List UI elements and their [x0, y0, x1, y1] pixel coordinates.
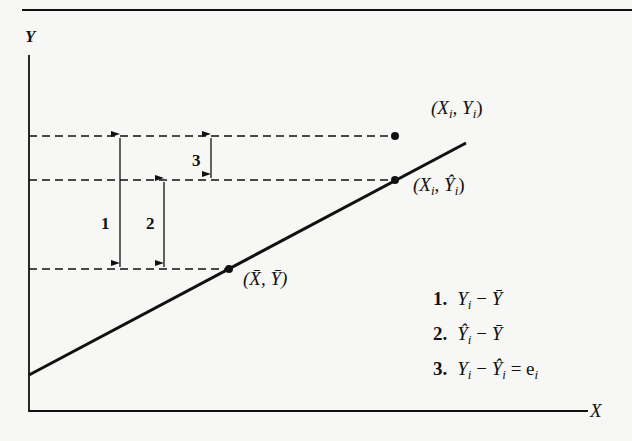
segment-1-label: 1	[101, 214, 110, 233]
y-axis-label: Y	[25, 27, 37, 46]
x-axis-label: X	[589, 400, 603, 421]
point-observed	[391, 132, 399, 140]
point-fitted	[391, 176, 399, 184]
legend-item-1: 1.Yi − Ȳ	[433, 288, 505, 312]
point-mean	[225, 265, 233, 273]
point-observed-label: (Xi, Yi)	[431, 97, 483, 121]
segment-2-label: 2	[146, 214, 155, 233]
legend: 1.Yi − Ȳ 2.Ŷi − Ȳ 3.Yi − Ŷi = ei	[433, 288, 539, 382]
regression-line	[29, 143, 466, 375]
regression-diagram: Y X 1 2 3 (Xi, Yi) (Xi, Ŷi) (X̄, Ȳ) 1.Yi…	[0, 0, 632, 441]
legend-item-3: 3.Yi − Ŷi = ei	[433, 358, 539, 382]
segment-3-label: 3	[192, 151, 201, 170]
legend-item-2: 2.Ŷi − Ȳ	[433, 323, 505, 347]
point-fitted-label: (Xi, Ŷi)	[413, 174, 465, 198]
point-mean-label: (X̄, Ȳ)	[243, 268, 287, 290]
